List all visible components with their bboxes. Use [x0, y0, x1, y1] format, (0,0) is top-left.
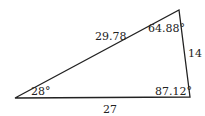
side-label-ab: 29.78 — [95, 30, 127, 43]
side-label-bc: 14 — [188, 47, 202, 60]
angle-label-b: 64.88° — [148, 22, 185, 35]
side-label-ac: 27 — [103, 103, 117, 116]
angle-label-a: 28° — [31, 85, 51, 98]
angle-label-c: 87.12° — [155, 85, 192, 98]
triangle-diagram: 29.78 14 27 28° 64.88° 87.12° — [0, 0, 205, 116]
